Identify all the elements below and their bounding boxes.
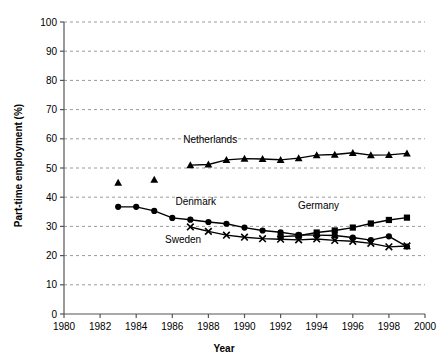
part-time-employment-chart: 0102030405060708090100 19801982198419861…	[0, 0, 448, 364]
data-point-netherlands-1983	[114, 179, 122, 186]
x-tick-label: 1982	[89, 321, 112, 332]
y-tick-label: 100	[40, 17, 57, 28]
data-point-denmark-1986	[169, 215, 175, 221]
chart-plot-area: 0102030405060708090100 19801982198419861…	[0, 0, 448, 364]
x-tick-label: 1984	[125, 321, 148, 332]
y-tick-label: 0	[51, 309, 57, 320]
x-tick-label: 1992	[269, 321, 292, 332]
data-point-germany-1992	[278, 234, 284, 240]
x-tick-group: 1980198219841986198819901992199419961998…	[53, 314, 437, 332]
data-point-denmark-1990	[241, 224, 247, 230]
data-point-germany-1993	[296, 233, 302, 239]
data-point-germany-1995	[332, 227, 338, 233]
series-label-sweden: Sweden	[165, 234, 201, 245]
y-tick-label: 50	[46, 163, 58, 174]
y-tick-label: 90	[46, 46, 58, 57]
data-point-denmark-1987	[187, 217, 193, 223]
data-point-denmark-1991	[259, 227, 265, 233]
data-point-denmark-1989	[223, 221, 229, 227]
y-tick-group: 0102030405060708090100	[40, 17, 64, 320]
data-point-germany-1997	[368, 220, 374, 226]
data-point-denmark-1988	[205, 219, 211, 225]
data-point-germany-1994	[314, 229, 320, 235]
data-point-denmark-1983	[115, 204, 121, 210]
data-point-germany-1998	[386, 217, 392, 223]
x-tick-label: 1980	[53, 321, 76, 332]
data-point-germany-1996	[350, 224, 356, 230]
data-point-germany-1999	[404, 215, 410, 221]
x-tick-label: 1996	[342, 321, 365, 332]
data-point-denmark-1985	[151, 208, 157, 214]
data-point-denmark-1998	[386, 233, 392, 239]
x-tick-label: 1988	[197, 321, 220, 332]
x-tick-label: 1986	[161, 321, 184, 332]
data-point-denmark-1984	[133, 204, 139, 210]
series-label-netherlands: Netherlands	[183, 134, 237, 145]
series-label-germany: Germany	[298, 200, 339, 211]
series-label-denmark: Denmark	[175, 196, 217, 207]
y-tick-label: 70	[46, 104, 58, 115]
y-tick-label: 80	[46, 75, 58, 86]
y-tick-label: 20	[46, 250, 58, 261]
y-tick-label: 40	[46, 192, 58, 203]
y-tick-label: 30	[46, 221, 58, 232]
data-point-netherlands-1985	[150, 176, 158, 183]
x-tick-label: 2000	[414, 321, 437, 332]
x-tick-label: 1998	[378, 321, 401, 332]
x-tick-label: 1994	[306, 321, 329, 332]
series-markers-group	[114, 149, 411, 250]
x-axis-title: Year	[0, 343, 448, 354]
y-tick-label: 60	[46, 133, 58, 144]
y-tick-label: 10	[46, 279, 58, 290]
y-axis-title: Part-time employment (%)	[13, 86, 24, 246]
x-tick-label: 1990	[233, 321, 256, 332]
